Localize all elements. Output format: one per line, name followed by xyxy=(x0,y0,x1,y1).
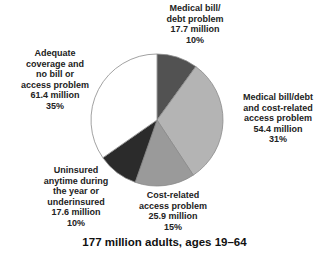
label-line: Medical bill/ xyxy=(150,3,240,14)
label-line: no bill or xyxy=(12,69,98,80)
label-percent: 10% xyxy=(34,218,118,229)
label-line: access problem xyxy=(226,113,329,124)
label-line: access problem xyxy=(12,80,98,91)
label-line: Uninsured xyxy=(34,165,118,176)
label-percent: 15% xyxy=(128,222,218,233)
label-cost-related: Cost-related access problem 25.9 million… xyxy=(128,190,218,232)
label-value: 61.4 million xyxy=(12,90,98,101)
label-value: 17.6 million xyxy=(34,207,118,218)
label-line: and cost-related xyxy=(226,103,329,114)
label-line: debt problem xyxy=(150,14,240,25)
label-line: coverage and xyxy=(12,59,98,70)
label-line: access problem xyxy=(128,201,218,212)
label-line: Medical bill/debt xyxy=(226,92,329,103)
label-medical-bill-debt: Medical bill/ debt problem 17.7 million … xyxy=(150,3,240,45)
label-line: Cost-related xyxy=(128,190,218,201)
label-line: underinsured xyxy=(34,197,118,208)
label-percent: 10% xyxy=(150,35,240,46)
label-value: 54.4 million xyxy=(226,124,329,135)
label-percent: 31% xyxy=(226,134,329,145)
label-value: 25.9 million xyxy=(128,211,218,222)
label-percent: 35% xyxy=(12,101,98,112)
label-line: the year or xyxy=(34,186,118,197)
label-both-problems: Medical bill/debt and cost-related acces… xyxy=(226,92,329,145)
label-line: Adequate xyxy=(12,48,98,59)
label-uninsured: Uninsured anytime during the year or und… xyxy=(34,165,118,228)
label-adequate-coverage: Adequate coverage and no bill or access … xyxy=(12,48,98,111)
chart-caption: 177 million adults, ages 19–64 xyxy=(0,236,329,248)
label-line: anytime during xyxy=(34,176,118,187)
label-value: 17.7 million xyxy=(150,24,240,35)
